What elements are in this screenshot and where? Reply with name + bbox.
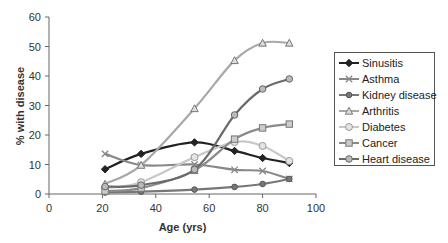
legend-marker-icon (338, 154, 360, 164)
y-tick-label: 40 (29, 70, 41, 82)
legend-marker-icon (338, 74, 360, 84)
legend-label: Kidney disease (362, 89, 437, 101)
legend-label: Sinusitis (362, 57, 403, 69)
legend-item-kidney-disease: Kidney disease (338, 87, 434, 103)
x-tick-label: 80 (256, 202, 268, 214)
x-tick-label: 0 (46, 202, 52, 214)
legend-item-sinusitis: Sinusitis (338, 55, 434, 71)
legend-label: Asthma (362, 73, 399, 85)
legend-marker-icon (338, 122, 360, 132)
legend-marker-icon (338, 90, 360, 100)
y-tick-label: 10 (29, 159, 41, 171)
legend-item-cancer: Cancer (338, 135, 434, 151)
x-tick-label: 40 (150, 202, 162, 214)
x-tick-label: 20 (96, 202, 108, 214)
legend-marker-icon (338, 138, 360, 148)
x-tick-label: 60 (203, 202, 215, 214)
legend-label: Heart disease (362, 153, 430, 165)
legend-marker-icon (338, 58, 360, 68)
legend-item-arthritis: Arthritis (338, 103, 434, 119)
legend-label: Arthritis (362, 105, 399, 117)
x-tick-label: 100 (307, 202, 325, 214)
legend-marker-icon (338, 106, 360, 116)
y-tick-label: 0 (35, 188, 41, 200)
legend-label: Diabetes (362, 121, 405, 133)
chart-legend: SinusitisAsthmaKidney diseaseArthritisDi… (334, 52, 435, 166)
legend-item-asthma: Asthma (338, 71, 434, 87)
y-tick-label: 50 (29, 41, 41, 53)
y-tick-label: 20 (29, 129, 41, 141)
legend-item-heart-disease: Heart disease (338, 151, 434, 167)
y-tick-label: 60 (29, 11, 41, 23)
legend-label: Cancer (362, 137, 397, 149)
x-axis-label: Age (yrs) (159, 221, 207, 233)
y-tick-label: 30 (29, 100, 41, 112)
y-axis-label: % with disease (14, 67, 26, 145)
legend-item-diabetes: Diabetes (338, 119, 434, 135)
